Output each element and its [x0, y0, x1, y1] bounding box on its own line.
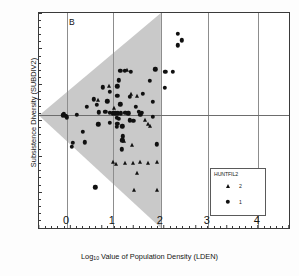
- gridline-v-1: [113, 13, 114, 228]
- x-tick-1.0: 1.0: [160, 228, 168, 229]
- big-numeral-1: 1: [109, 214, 115, 226]
- gridline-v-3: [208, 13, 209, 228]
- legend-circle-icon: [226, 200, 230, 204]
- gridline-v-0: [67, 13, 68, 228]
- y-tick-50: 50: [38, 189, 39, 195]
- data-point-2-5: [112, 106, 116, 110]
- x-tick-1.5: 1.5: [192, 228, 200, 229]
- legend-title: HUNTFIL2: [214, 171, 238, 177]
- x-tick-2.0: 2.0: [223, 228, 231, 229]
- x-tick--0.5: -.5: [67, 228, 73, 229]
- legend-row-circle[interactable]: 1: [211, 196, 265, 208]
- data-point-2-20: [155, 188, 159, 192]
- data-point-2-17: [155, 160, 159, 164]
- data-point-2-10: [130, 142, 134, 146]
- x-tick--1.0: -1.0: [38, 228, 44, 229]
- figure-panel-b: B 405060708090100 -1.0-.50.0.51.01.52.02…: [0, 0, 299, 276]
- data-point-2-4: [96, 98, 100, 102]
- data-point-2-13: [123, 161, 127, 165]
- y-tick-80: 80: [38, 82, 39, 88]
- x-axis-title-subscript: 10: [93, 255, 99, 261]
- data-point-2-18: [135, 171, 139, 175]
- x-tick-2.5: 2.5: [254, 228, 262, 229]
- x-tick-3.0: 3.0: [285, 228, 290, 229]
- legend-box[interactable]: HUNTFIL2 2 1: [210, 168, 266, 216]
- data-point-2-8: [148, 124, 152, 128]
- legend-row-triangle[interactable]: 2: [211, 180, 265, 192]
- x-axis-title-prefix: Log: [81, 252, 93, 261]
- big-numeral-0: 0: [63, 214, 69, 226]
- data-point-2-19: [132, 188, 136, 192]
- data-point-2-1: [107, 84, 111, 88]
- legend-label-2: 2: [239, 183, 242, 189]
- data-point-2-9: [122, 139, 126, 143]
- data-point-2-16: [146, 161, 150, 165]
- x-tick-0.0: 0.0: [98, 228, 106, 229]
- x-tick-0.5: .5: [131, 228, 136, 229]
- data-point-2-15: [138, 160, 142, 164]
- big-numeral-3: 3: [204, 214, 210, 226]
- y-tick-100: 100: [38, 12, 39, 16]
- y-axis-title: Subsistence Diversity (SUBDIV2): [29, 28, 38, 198]
- data-point-2-12: [114, 161, 118, 165]
- data-point-2-0: [125, 67, 129, 71]
- panel-label: B: [69, 17, 75, 27]
- data-point-2-3: [135, 94, 139, 98]
- y-tick-60: 60: [38, 153, 39, 159]
- x-axis-title: Log10 Value of Population Density (LDEN): [0, 252, 299, 261]
- gridline-v-2: [161, 13, 162, 228]
- y-tick-90: 90: [38, 46, 39, 52]
- x-axis-title-rest: Value of Population Density (LDEN): [99, 252, 218, 261]
- big-numeral-2: 2: [157, 214, 163, 226]
- y-tick-70: 70: [38, 118, 39, 124]
- legend-triangle-icon: [226, 184, 230, 188]
- legend-label-1: 1: [239, 199, 242, 205]
- data-point-2-2: [129, 92, 133, 96]
- data-point-2-14: [131, 161, 135, 165]
